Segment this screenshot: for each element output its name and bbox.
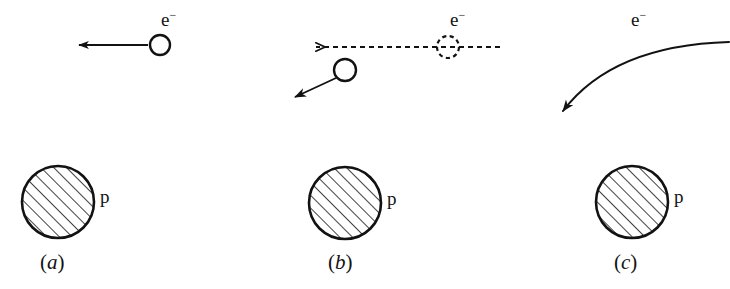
- panel-caption-a: (a): [40, 252, 65, 273]
- electron-label-a: e−: [161, 9, 176, 29]
- electron-circle-a: [150, 35, 170, 55]
- caption-open-c: (: [614, 250, 621, 274]
- electron-label-c: e−: [631, 9, 646, 29]
- electron-label-b: e−: [450, 9, 465, 29]
- proton-circle-a: [22, 166, 94, 238]
- caption-letter-a: a: [47, 250, 58, 274]
- panel-b-graphics: [295, 36, 500, 239]
- panel-c-graphics: [563, 42, 729, 238]
- proton-label-c: p: [674, 187, 684, 206]
- proton-circle-c: [596, 166, 668, 238]
- caption-open-a: (: [40, 250, 47, 274]
- caption-close-a: ): [58, 250, 65, 274]
- caption-letter-b: b: [335, 250, 346, 274]
- electron-trajectory-curve-c: [563, 42, 729, 111]
- proton-label-a: p: [100, 187, 110, 206]
- caption-close-b: ): [346, 250, 353, 274]
- electron-charge-b: −: [458, 8, 465, 22]
- electron-circle-b: [334, 59, 356, 81]
- figure-canvas: [0, 0, 730, 289]
- electron-charge-a: −: [169, 8, 176, 22]
- ghost-electron-circle-b: [437, 36, 459, 58]
- proton-label-b: p: [387, 189, 397, 208]
- electron-charge-c: −: [639, 8, 646, 22]
- proton-circle-b: [309, 167, 381, 239]
- caption-letter-c: c: [621, 250, 630, 274]
- electron-velocity-arrow-b: [295, 78, 336, 97]
- panel-a-graphics: [22, 35, 170, 238]
- caption-open-b: (: [328, 250, 335, 274]
- panel-caption-c: (c): [614, 252, 637, 273]
- panel-caption-b: (b): [328, 252, 353, 273]
- physics-figure: e− e− e− p p p (a) (b) (c): [0, 0, 730, 289]
- caption-close-c: ): [630, 250, 637, 274]
